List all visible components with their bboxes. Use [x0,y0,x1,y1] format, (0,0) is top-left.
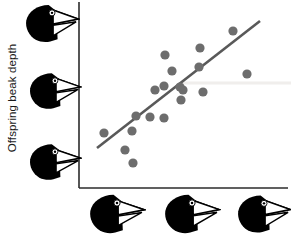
scatter-point [228,26,237,35]
scatter-point [195,43,204,52]
scatter-point [198,87,207,96]
finch-head-icon-large-beak [24,3,80,44]
faint-horizontal-line [180,82,291,85]
scatter-points [99,26,251,167]
finch-pupil [54,80,56,82]
scatter-point [99,128,108,137]
scatter-point [160,50,169,59]
faint-horizontal-line [180,82,291,85]
scatter-point [127,126,136,135]
finch-head-icon-medium-beak [163,193,221,235]
finch-head-icon-medium-beak [28,71,82,111]
finch-pupil [191,202,194,205]
finch-head-icon-large-beak [236,193,291,235]
finch-head-icon-small-beak [28,142,82,182]
finch-beak-depth-scatter-figure: Offspring beak depth [0,0,291,236]
scatter-point [120,145,129,154]
scatter-point [131,111,140,120]
finch-pupil [51,12,53,14]
scatter-point [159,113,168,122]
scatter-point [176,95,185,104]
scatter-point [128,158,137,167]
axis-lines [79,2,288,188]
finch-pupil [116,202,119,205]
scatter-point [167,66,176,75]
finch-head-icon-small-beak [88,193,146,235]
scatter-point [159,81,168,90]
scatter-point [194,62,203,71]
finch-pupil [263,202,265,204]
scatter-point [150,85,159,94]
scatter-point [242,69,251,78]
scatter-point [178,85,187,94]
finch-pupil [54,151,56,153]
scatter-point [145,112,154,121]
